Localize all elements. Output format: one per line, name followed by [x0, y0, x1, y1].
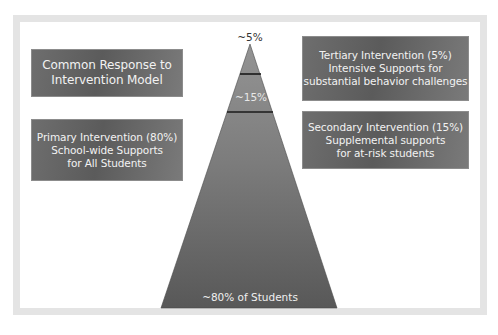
secondary-line-1: Secondary Intervention (15%) [308, 121, 463, 134]
primary-line-1: Primary Intervention (80%) [37, 131, 177, 144]
tier-label-secondary: ~15% [235, 91, 267, 103]
title-line-1: Common Response to [42, 58, 172, 73]
model-title-box: Common Response to Intervention Model [31, 49, 183, 97]
secondary-line-3: for at-risk students [337, 147, 435, 160]
secondary-line-2: Supplemental supports [326, 134, 446, 147]
tier-label-tertiary: ~5% [237, 31, 262, 43]
tertiary-line-3: substantial behavior challenges [304, 75, 468, 88]
primary-line-3: for All Students [67, 157, 146, 170]
tertiary-line-1: Tertiary Intervention (5%) [319, 49, 451, 62]
tier-label-primary: ~80% of Students [202, 291, 298, 303]
tertiary-line-2: Intensive Supports for [329, 62, 443, 75]
primary-intervention-box: Primary Intervention (80%) School-wide S… [31, 119, 183, 181]
primary-line-2: School-wide Supports [51, 144, 163, 157]
title-line-2: Intervention Model [51, 73, 162, 88]
tertiary-intervention-box: Tertiary Intervention (5%) Intensive Sup… [302, 36, 469, 101]
secondary-intervention-box: Secondary Intervention (15%) Supplementa… [302, 111, 469, 169]
